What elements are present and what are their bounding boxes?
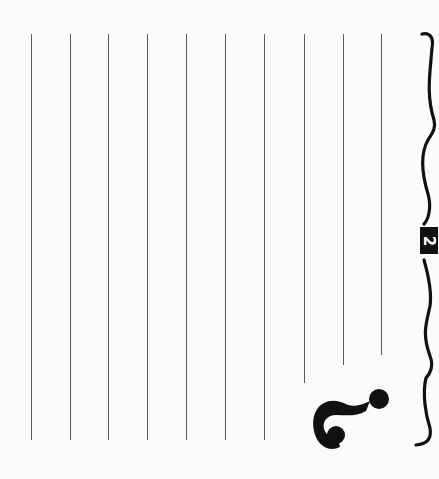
writing-line bbox=[31, 34, 32, 440]
writing-line bbox=[147, 34, 148, 440]
writing-line bbox=[225, 34, 226, 440]
writing-line bbox=[108, 34, 109, 440]
writing-line bbox=[186, 34, 187, 440]
section-number-badge: 2 bbox=[420, 227, 438, 254]
question-mark-icon bbox=[300, 385, 400, 460]
writing-line bbox=[343, 34, 344, 365]
writing-line bbox=[381, 34, 382, 355]
section-number: 2 bbox=[420, 235, 438, 245]
worksheet-page: 2 bbox=[0, 0, 439, 479]
writing-line bbox=[264, 34, 265, 440]
writing-line bbox=[70, 34, 71, 440]
writing-line bbox=[304, 34, 305, 383]
